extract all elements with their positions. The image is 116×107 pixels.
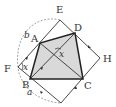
geometry-diagram: E D A H F B C x x b a bbox=[0, 0, 116, 107]
arrow-marker bbox=[40, 91, 43, 94]
label-side-a: a bbox=[27, 87, 32, 97]
label-angle-f: x bbox=[23, 62, 28, 72]
label-h: H bbox=[103, 53, 112, 64]
label-e: E bbox=[56, 4, 63, 15]
arrow-marker bbox=[88, 45, 91, 48]
label-f: F bbox=[4, 63, 11, 74]
label-d: D bbox=[74, 22, 82, 33]
label-angle-center: x bbox=[59, 49, 64, 59]
label-c: C bbox=[84, 80, 92, 91]
label-a: A bbox=[30, 33, 39, 44]
label-side-b: b bbox=[24, 30, 30, 40]
